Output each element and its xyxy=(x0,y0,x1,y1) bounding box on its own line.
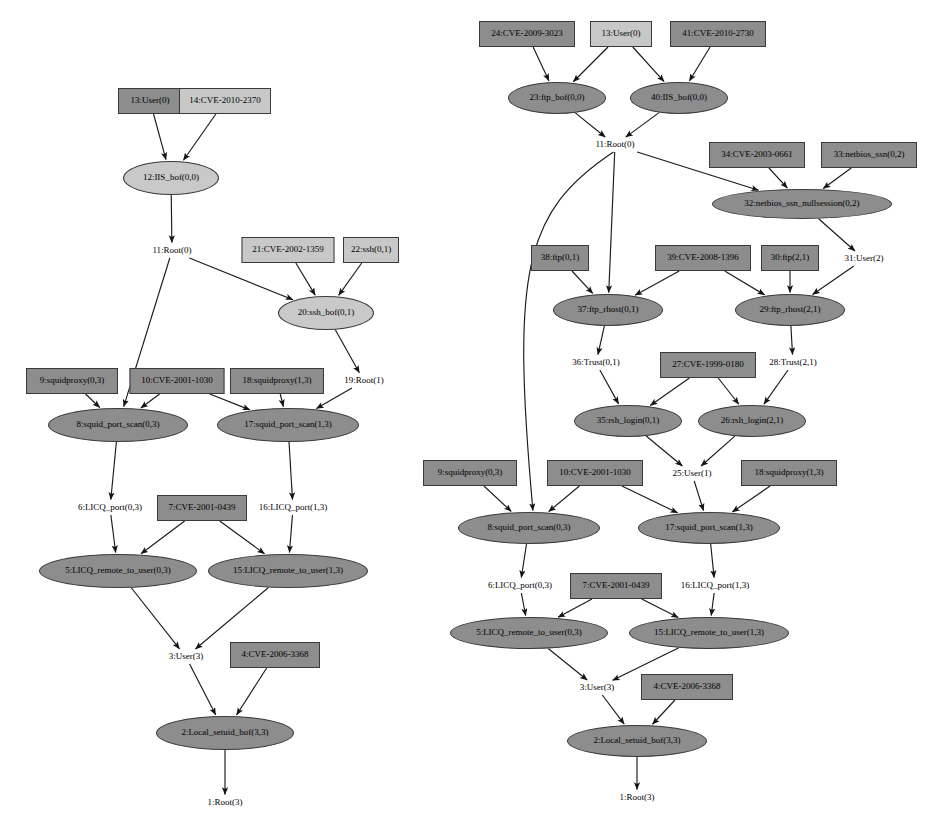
graph-edge-L7-to-L15 xyxy=(220,521,265,554)
graph-node-R24: 24:CVE-2009-3023 xyxy=(479,21,575,47)
graph-node-L20: 20:ssh_bof(0,1) xyxy=(278,296,374,330)
graph-edge-L7-to-L5 xyxy=(141,521,185,554)
graph-edge-R32-to-R31 xyxy=(819,219,855,251)
graph-node-label: 28:Trust(2,1) xyxy=(769,358,816,367)
graph-node-L11: 11:Root(0) xyxy=(140,243,204,259)
graph-node-label: 5:LICQ_remote_to_user(0,3) xyxy=(65,566,171,575)
graph-node-R17: 17:squid_port_scan(1,3) xyxy=(638,512,780,544)
graph-edge-L12-to-L11 xyxy=(171,195,172,243)
graph-edge-R28-to-R26 xyxy=(764,370,788,404)
graph-edge-R27-to-R35 xyxy=(650,378,689,405)
graph-edge-R25-to-R17 xyxy=(694,481,703,511)
graph-edge-L22-to-L20 xyxy=(339,263,362,295)
graph-node-L6: 6:LICQ_port(0,3) xyxy=(64,500,156,516)
graph-node-L15: 15:LICQ_remote_to_user(1,3) xyxy=(208,554,368,588)
graph-edge-R4-to-R2 xyxy=(653,700,675,724)
graph-node-R40: 40:IIS_bof(0,0) xyxy=(630,82,728,114)
graph-edge-R6-to-R5 xyxy=(521,593,525,616)
graph-edge-R24-to-R23 xyxy=(533,47,549,81)
graph-node-label: 38:ftp(0,1) xyxy=(541,253,580,262)
graph-edge-R11-to-R8 xyxy=(524,152,614,511)
graph-node-label: 9:squidproxy(0,3) xyxy=(438,468,503,477)
graph-node-L21: 21:CVE-2002-1359 xyxy=(242,237,335,263)
graph-node-L2: 2:Local_setuid_bof(3,3) xyxy=(156,716,294,750)
graph-node-R41: 41:CVE-2010-2730 xyxy=(670,21,766,47)
graph-node-label: 6:LICQ_port(0,3) xyxy=(78,503,142,512)
graph-node-label: 7:CVE-2001-0439 xyxy=(583,581,650,590)
graph-node-R11: 11:Root(0) xyxy=(585,137,645,153)
graph-node-label: 13:User(0) xyxy=(602,29,641,38)
graph-edge-R8-to-R6 xyxy=(521,544,526,578)
graph-edge-L4-to-L2 xyxy=(237,668,267,715)
graph-edge-R10-to-R8 xyxy=(549,486,580,512)
graph-node-L18: 18:squidproxy(1,3) xyxy=(230,368,324,394)
graph-node-label: 15:LICQ_remote_to_user(1,3) xyxy=(233,566,343,575)
graph-node-label: 40:IIS_bof(0,0) xyxy=(651,93,707,102)
graph-node-L17: 17:squid_port_scan(1,3) xyxy=(217,408,359,442)
graph-node-label: 17:squid_port_scan(1,3) xyxy=(665,523,753,532)
graph-node-label: 23:ftp_bof(0,0) xyxy=(529,93,584,102)
graph-node-L9: 9:squidproxy(0,3) xyxy=(26,368,118,394)
graph-edge-R39-to-R29 xyxy=(725,271,765,295)
graph-edge-L20-to-L19 xyxy=(335,330,359,373)
graph-node-label: 34:CVE-2003-0661 xyxy=(721,150,793,159)
graph-node-R31: 31:User(2) xyxy=(835,251,893,267)
graph-edge-R17-to-R16 xyxy=(711,544,714,578)
graph-node-R33: 33:netbios_ssn(0,2) xyxy=(821,142,917,168)
graph-node-label: 22:ssh(0,1) xyxy=(351,245,391,254)
graph-node-label: 33:netbios_ssn(0,2) xyxy=(834,150,905,159)
graph-edge-R11-to-R37 xyxy=(609,152,615,293)
graph-edge-R29-to-R28 xyxy=(791,326,793,355)
graph-node-R18: 18:squidproxy(1,3) xyxy=(741,460,837,486)
graph-node-label: 18:squidproxy(1,3) xyxy=(754,468,823,477)
graph-node-L3: 3:User(3) xyxy=(158,649,214,665)
graph-node-label: 11:Root(0) xyxy=(152,246,191,255)
graph-node-R27: 27:CVE-1999-0180 xyxy=(660,352,756,378)
graph-node-label: 8:squid_port_scan(0,3) xyxy=(487,523,570,532)
graph-node-L19: 19:Root(1) xyxy=(334,373,394,389)
graph-node-label: 4:CVE-2006-3368 xyxy=(242,650,309,659)
graph-node-label: 35:rsh_login(0,1) xyxy=(597,416,660,425)
graph-edge-L15-to-L3 xyxy=(195,587,268,649)
graph-node-label: 5:LICQ_remote_to_user(0,3) xyxy=(476,628,582,637)
graph-edge-L3-to-L2 xyxy=(190,664,216,715)
graph-node-R30: 30:ftp(2,1) xyxy=(761,245,819,271)
attack-graph-figure: 13:User(0)14:CVE-2010-237012:IIS_bof(0,0… xyxy=(0,0,951,839)
graph-edge-L17-to-L16 xyxy=(289,442,292,500)
graph-edge-L21-to-L20 xyxy=(296,263,315,295)
graph-edge-R39-to-R37 xyxy=(635,271,679,295)
graph-node-R6: 6:LICQ_port(0,3) xyxy=(474,578,566,594)
graph-node-label: 14:CVE-2010-2370 xyxy=(189,96,261,105)
graph-edge-R23-to-R11 xyxy=(575,113,605,137)
graph-node-label: 21:CVE-2002-1359 xyxy=(252,245,324,254)
graph-node-R7: 7:CVE-2001-0439 xyxy=(570,573,662,599)
graph-edge-R26-to-R25 xyxy=(701,436,735,466)
graph-node-label: 3:User(3) xyxy=(580,683,615,692)
graph-node-R34: 34:CVE-2003-0661 xyxy=(709,142,805,168)
graph-node-R38: 38:ftp(0,1) xyxy=(531,245,589,271)
graph-node-label: 15:LICQ_remote_to_user(1,3) xyxy=(654,628,764,637)
graph-node-label: 17:squid_port_scan(1,3) xyxy=(244,420,332,429)
graph-node-R4: 4:CVE-2006-3368 xyxy=(641,674,733,700)
graph-node-label: 7:CVE-2001-0439 xyxy=(169,503,236,512)
graph-node-L22: 22:ssh(0,1) xyxy=(343,237,399,263)
graph-node-label: 3:User(3) xyxy=(169,652,204,661)
graph-node-L13: 13:User(0) xyxy=(118,88,182,114)
graph-node-R25: 25:User(1) xyxy=(663,466,721,482)
graph-node-label: 1:Root(3) xyxy=(620,793,655,802)
graph-edge-L10-to-L17 xyxy=(210,394,250,410)
graph-edge-R3-to-R2 xyxy=(602,695,624,724)
graph-edge-R7-to-R15 xyxy=(642,599,678,617)
graph-edge-R27-to-R26 xyxy=(718,378,739,404)
graph-node-L4: 4:CVE-2006-3368 xyxy=(230,642,320,668)
graph-edge-R16-to-R15 xyxy=(711,593,714,616)
graph-edge-R36-to-R35 xyxy=(600,370,619,404)
graph-node-label: 19:Root(1) xyxy=(344,376,384,385)
graph-node-R15: 15:LICQ_remote_to_user(1,3) xyxy=(629,617,789,649)
graph-node-L5: 5:LICQ_remote_to_user(0,3) xyxy=(39,554,197,588)
graph-edge-R34-to-R32 xyxy=(769,168,787,188)
graph-node-L16: 16:LICQ_port(1,3) xyxy=(247,500,339,516)
graph-node-label: 1:Root(3) xyxy=(208,798,243,807)
graph-node-label: 25:User(1) xyxy=(673,469,712,478)
graph-edge-L13-to-L12 xyxy=(154,114,166,160)
